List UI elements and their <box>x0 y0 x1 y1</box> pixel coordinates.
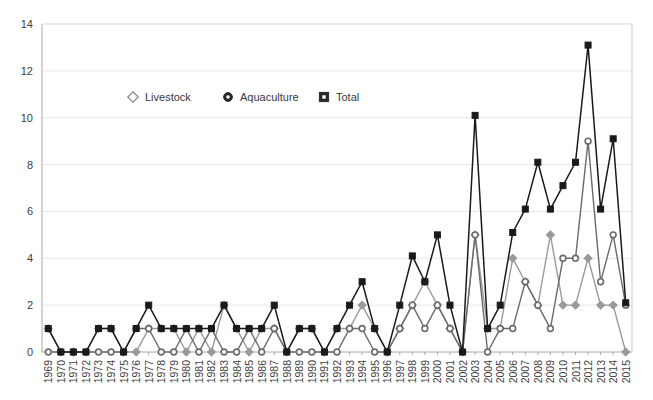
line-chart: 02468101214 1969197019711972197319741975… <box>0 0 653 400</box>
data-point-marker <box>447 326 453 332</box>
x-axis-tick-label: 2009 <box>544 360 556 384</box>
x-axis-tick-label: 1972 <box>80 360 92 384</box>
data-point-marker <box>397 326 403 332</box>
x-axis-tick-label: 1970 <box>55 360 67 384</box>
data-point-marker <box>623 300 629 306</box>
x-axis-tick-label: 1998 <box>406 360 418 384</box>
data-point-marker <box>447 302 453 308</box>
x-axis-tick-label: 1996 <box>381 360 393 384</box>
x-axis-tick-label: 2000 <box>431 360 443 384</box>
data-point-marker <box>284 349 290 355</box>
x-axis-tick-label: 2007 <box>519 360 531 384</box>
data-point-marker <box>535 302 541 308</box>
data-point-marker <box>146 302 152 308</box>
data-point-marker <box>108 326 114 332</box>
data-point-marker <box>121 349 127 355</box>
data-point-marker <box>296 349 302 355</box>
data-point-marker <box>321 349 327 355</box>
plot-background <box>42 24 632 352</box>
data-point-marker <box>221 349 227 355</box>
chart-container: 02468101214 1969197019711972197319741975… <box>0 0 653 400</box>
data-point-marker <box>434 232 440 238</box>
x-axis-tick-label: 1991 <box>318 360 330 384</box>
data-point-marker <box>334 326 340 332</box>
x-axis-tick-label: 1988 <box>281 360 293 384</box>
y-axis-tick-label: 6 <box>27 205 33 217</box>
data-point-marker <box>472 232 478 238</box>
data-point-marker <box>510 326 516 332</box>
data-point-marker <box>472 112 478 118</box>
data-point-marker <box>497 326 503 332</box>
data-point-marker <box>183 326 189 332</box>
x-axis-tick-label: 1982 <box>205 360 217 384</box>
x-axis-tick-label: 1980 <box>180 360 192 384</box>
x-axis-tick-label: 2008 <box>532 360 544 384</box>
data-point-marker <box>83 349 89 355</box>
x-axis-tick-label: 2014 <box>607 360 619 384</box>
data-point-marker <box>196 326 202 332</box>
data-point-marker <box>347 326 353 332</box>
data-point-marker <box>196 349 202 355</box>
data-point-marker <box>347 302 353 308</box>
x-axis-tick-label: 1993 <box>344 360 356 384</box>
data-point-marker <box>146 326 152 332</box>
x-axis-tick-label: 1990 <box>306 360 318 384</box>
x-axis-tick-label: 1985 <box>243 360 255 384</box>
data-point-marker <box>70 349 76 355</box>
x-axis-tick-label: 1977 <box>143 360 155 384</box>
data-point-marker <box>610 136 616 142</box>
x-axis-tick-label: 1979 <box>168 360 180 384</box>
data-point-marker <box>548 326 554 332</box>
x-axis-tick-label: 2003 <box>469 360 481 384</box>
data-point-marker <box>309 326 315 332</box>
y-axis-tick-label: 14 <box>21 18 33 30</box>
data-point-marker <box>246 326 252 332</box>
data-point-marker <box>334 349 340 355</box>
data-point-marker <box>384 349 390 355</box>
x-axis-tick-label: 1973 <box>92 360 104 384</box>
data-point-marker <box>372 349 378 355</box>
chart-legend: LivestockAquacultureTotal <box>128 91 359 103</box>
data-point-marker <box>485 349 491 355</box>
legend-item-total[interactable]: Total <box>319 91 359 103</box>
data-point-marker <box>510 230 516 236</box>
y-axis-tick-label: 12 <box>21 65 33 77</box>
data-point-marker <box>485 326 491 332</box>
data-point-marker <box>497 302 503 308</box>
x-axis-tick-label: 1971 <box>67 360 79 384</box>
data-point-marker <box>359 279 365 285</box>
data-point-marker <box>171 326 177 332</box>
x-axis-tick-label: 1969 <box>42 360 54 384</box>
data-point-marker <box>409 302 415 308</box>
x-axis-tick-label: 1999 <box>419 360 431 384</box>
data-point-marker <box>158 349 164 355</box>
x-axis-tick-label: 2001 <box>444 360 456 384</box>
y-axis-tick-labels: 02468101214 <box>21 18 33 358</box>
x-axis-tick-label: 1986 <box>256 360 268 384</box>
x-axis-tick-label: 1978 <box>155 360 167 384</box>
x-axis-tick-label: 2013 <box>595 360 607 384</box>
data-point-marker <box>573 255 579 261</box>
x-axis-tick-label: 1994 <box>356 360 368 384</box>
x-axis-tick-label: 2005 <box>494 360 506 384</box>
data-point-marker <box>221 302 227 308</box>
data-point-marker <box>359 326 365 332</box>
legend-label: Aquaculture <box>240 91 299 103</box>
legend-label: Total <box>336 91 359 103</box>
x-axis-tick-labels: 1969197019711972197319741975197619771978… <box>42 360 631 384</box>
data-point-marker <box>271 302 277 308</box>
x-axis-tick-label: 2012 <box>582 360 594 384</box>
x-axis-tick-label: 1989 <box>293 360 305 384</box>
x-axis-tick-label: 2011 <box>570 360 582 383</box>
data-point-marker <box>108 349 114 355</box>
data-point-marker <box>96 349 102 355</box>
data-point-marker <box>422 279 428 285</box>
data-point-marker <box>95 326 101 332</box>
x-axis-tick-label: 1997 <box>394 360 406 384</box>
data-point-marker <box>598 279 604 285</box>
data-point-marker <box>585 138 591 144</box>
data-point-marker <box>171 349 177 355</box>
data-point-marker <box>535 159 541 165</box>
x-axis-tick-label: 1987 <box>268 360 280 384</box>
data-point-marker <box>271 326 277 332</box>
